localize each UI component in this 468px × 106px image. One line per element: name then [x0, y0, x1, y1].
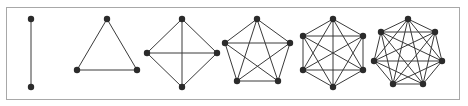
graph-edge [381, 19, 408, 32]
graph-node [74, 67, 80, 73]
graph-edge [182, 53, 217, 87]
graph-node [378, 29, 384, 35]
graph-node [179, 16, 185, 22]
graph-edge [77, 19, 107, 70]
graph-node [420, 81, 426, 87]
complete-graphs-diagram [0, 0, 468, 106]
graph-node [439, 58, 445, 64]
graph-edge [237, 43, 290, 81]
graph-node [360, 67, 366, 73]
graph-node [360, 33, 366, 39]
graph-node [28, 16, 34, 22]
graph-node [300, 33, 306, 39]
graph-k6 [300, 16, 366, 90]
graphs-group [28, 16, 445, 90]
graph-edge [147, 19, 182, 53]
graph-node [432, 29, 438, 35]
graph-edge [225, 43, 278, 81]
graph-edge [182, 19, 217, 53]
graph-k3 [74, 16, 140, 73]
graph-node [275, 78, 281, 84]
graph-node [254, 16, 260, 22]
graph-node [134, 67, 140, 73]
graph-node [144, 50, 150, 56]
graph-node [179, 84, 185, 90]
graph-k2 [28, 16, 34, 90]
graph-node [405, 16, 411, 22]
graph-node [28, 84, 34, 90]
graph-node [390, 81, 396, 87]
graph-node [214, 50, 220, 56]
graph-edge [147, 53, 182, 87]
graph-edge [393, 61, 442, 84]
graph-k7 [371, 16, 445, 87]
graph-edge [408, 19, 435, 32]
graph-node [330, 84, 336, 90]
graph-node [287, 40, 293, 46]
graph-edge [225, 19, 257, 43]
graph-edge [374, 61, 423, 84]
graph-k4 [144, 16, 220, 90]
graph-node [222, 40, 228, 46]
graph-edge [278, 43, 290, 81]
graph-node [234, 78, 240, 84]
graph-edge [225, 43, 237, 81]
graph-k5 [222, 16, 293, 84]
graph-node [330, 16, 336, 22]
graph-edge [257, 19, 290, 43]
graph-node [371, 58, 377, 64]
graph-node [104, 16, 110, 22]
graph-edge [107, 19, 137, 70]
graph-edge [257, 19, 278, 81]
graph-node [300, 67, 306, 73]
graph-edge [237, 19, 257, 81]
